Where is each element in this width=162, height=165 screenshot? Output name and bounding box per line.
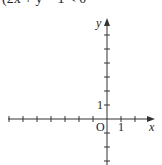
x-axis-label: x <box>148 120 155 134</box>
y-unit-label: 1 <box>97 98 103 112</box>
x-unit-label: 1 <box>118 120 124 134</box>
coordinate-plane: x y O 1 1 <box>0 0 162 165</box>
axis-ticks <box>9 35 135 161</box>
origin-label: O <box>96 120 105 134</box>
y-axis-label: y <box>95 16 102 30</box>
y-axis-arrow-icon <box>104 18 110 26</box>
